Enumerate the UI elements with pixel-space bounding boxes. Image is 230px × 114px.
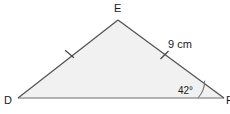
angle-measure-label-F: 42° <box>178 85 193 96</box>
geometry-figure: D E F 9 cm 42° <box>0 0 230 114</box>
triangle-diagram-canvas: D E F 9 cm 42° <box>0 0 230 114</box>
side-length-label-EF: 9 cm <box>168 38 192 50</box>
vertex-label-E: E <box>114 2 121 14</box>
tick-mark-side-DE <box>65 50 74 58</box>
vertex-label-F: F <box>226 94 230 106</box>
vertex-label-D: D <box>4 94 12 106</box>
